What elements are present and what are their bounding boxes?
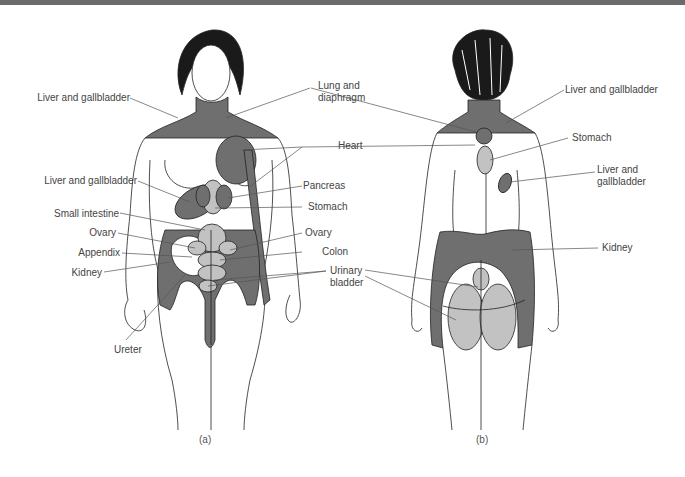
label-stomach-front: Stomach xyxy=(308,201,347,213)
label-liver-gallbladder-front-mid: Liver and gallbladder xyxy=(22,175,137,187)
caption-panel-a: (a) xyxy=(199,434,211,445)
left-hand xyxy=(125,300,146,331)
label-kidney-back: Kidney xyxy=(602,242,633,254)
back-buttock-right-region xyxy=(480,284,516,350)
face xyxy=(192,45,230,101)
label-ovary-right: Ovary xyxy=(305,227,332,239)
gallbladder-region xyxy=(196,185,210,207)
label-lung-diaphragm-line1: Lung and xyxy=(318,80,360,92)
colon-region-2 xyxy=(198,265,226,281)
back-buttock-left-region xyxy=(448,284,484,350)
label-lung-diaphragm-line2: diaphragm xyxy=(318,92,365,104)
label-pancreas: Pancreas xyxy=(303,180,345,192)
ovary-left-region xyxy=(188,241,206,255)
ovary-right-region xyxy=(219,241,237,255)
label-small-intestine: Small intestine xyxy=(22,208,119,220)
inner-arm-right xyxy=(264,160,273,270)
label-liver-gallbladder-back-line1: Liver and xyxy=(597,164,638,176)
back-liver-region xyxy=(496,172,514,195)
label-appendix: Appendix xyxy=(50,247,120,259)
inner-arm-left xyxy=(149,160,158,270)
label-liver-gallbladder-back-line2: gallbladder xyxy=(597,176,646,188)
label-stomach-back: Stomach xyxy=(572,132,611,144)
label-kidney-front: Kidney xyxy=(50,267,102,279)
label-urinary-bladder-line1: Urinary xyxy=(330,265,362,277)
back-hair xyxy=(453,30,513,100)
right-hand xyxy=(286,295,301,322)
pancreas-region xyxy=(216,185,232,209)
label-colon: Colon xyxy=(322,246,348,258)
label-ureter: Ureter xyxy=(114,344,142,356)
back-view-figure xyxy=(412,30,559,430)
back-lung-diaphragm-region xyxy=(476,128,492,144)
label-liver-gallbladder-back-top: Liver and gallbladder xyxy=(565,84,658,96)
label-liver-gallbladder-front-top: Liver and gallbladder xyxy=(22,92,130,104)
front-view-figure xyxy=(125,30,301,430)
label-urinary-bladder-line2: bladder xyxy=(330,277,363,289)
caption-panel-b: (b) xyxy=(476,434,488,445)
label-ovary-left: Ovary xyxy=(60,227,116,239)
neck-shoulder-region xyxy=(145,97,278,138)
label-heart: Heart xyxy=(338,140,362,152)
